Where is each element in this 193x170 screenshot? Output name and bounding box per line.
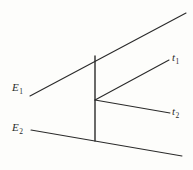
label-t1-subscript: 1 [176,57,180,66]
diagram-canvas [0,0,193,170]
outgoing-ray-t2 [95,100,170,113]
incoming-ray-e1 [30,13,186,96]
label-t2-base: t [172,105,175,117]
label-e1: E1 [12,82,22,93]
label-e2: E2 [12,122,22,133]
label-t2: t2 [172,106,179,117]
ray-diagram: E1 E2 t1 t2 [0,0,193,170]
label-t1-base: t [172,51,175,63]
label-e2-subscript: 2 [19,127,23,136]
outgoing-ray-t1 [95,60,169,100]
label-e2-base: E [12,121,19,133]
label-t1: t1 [172,52,179,63]
label-t2-subscript: 2 [176,111,180,120]
incoming-ray-e2 [31,130,182,156]
label-e1-subscript: 1 [19,87,23,96]
label-e1-base: E [12,81,19,93]
